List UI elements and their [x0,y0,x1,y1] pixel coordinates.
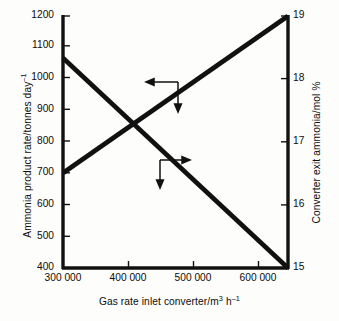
left-axis-ticks [64,16,70,268]
right-axis-ticks [281,16,287,268]
left-axis-title-exponent: –1 [19,73,28,81]
left-tick-label-600: 600 [12,198,54,209]
left-tick-label-700: 700 [12,166,54,177]
x-axis-title-exponent-2: –1 [232,294,240,303]
x-axis-title: Gas rate inlet converter/m3 h–1 [0,296,339,307]
chart-figure: 1200 1100 1000 900 800 700 600 500 400 1… [0,0,339,321]
arrow-left-head [146,79,154,86]
left-tick-label-800: 800 [12,135,54,146]
left-tick-label-500: 500 [12,230,54,241]
left-tick-label-900: 900 [12,103,54,114]
x-tick-label-600000: 600 000 [223,272,293,283]
series-line-converter-exit-ammonia [63,16,288,173]
x-axis-title-mid: h [223,296,232,307]
right-tick-label-19: 19 [293,9,327,20]
series-line-ammonia-product-rate [63,58,288,268]
arrow-right-head [182,157,190,164]
left-axis-title-text: Ammonia product rate/tonnes day [22,82,33,238]
x-tick-label-400000: 400 000 [93,272,163,283]
arrow-down2-head [157,180,164,188]
left-tick-label-1200: 1200 [12,9,54,20]
x-tick-label-500000: 500 000 [158,272,228,283]
right-axis-title: Converter exit ammonia/mol % [311,28,322,278]
x-axis-ticks [129,261,259,267]
left-axis-title: Ammonia product rate/tonnes day–1 [22,31,33,281]
x-axis-title-pre: Gas rate inlet converter/m [99,296,219,307]
x-tick-label-300000: 300 000 [28,272,98,283]
left-tick-label-400: 400 [12,261,54,272]
arrow-down-head [175,104,182,112]
left-tick-label-1100: 1100 [12,39,54,50]
